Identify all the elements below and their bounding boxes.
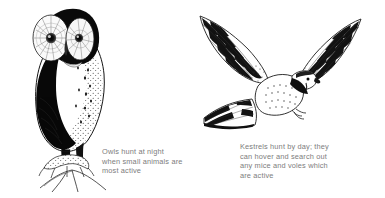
illustration-page: Owls hunt at night when small animals ar… xyxy=(0,0,385,198)
owl-head xyxy=(33,9,99,67)
owl-facial-disc-left xyxy=(33,15,69,61)
owl-facial-disc-right xyxy=(66,18,94,60)
branch xyxy=(40,170,106,192)
kestrel-left-wing xyxy=(200,16,269,83)
owl-talons xyxy=(44,155,89,169)
owl-eye-right xyxy=(75,34,83,42)
kestrel-caption: Kestrels hunt by day; they can hover and… xyxy=(240,142,358,180)
kestrel-eye xyxy=(307,78,310,81)
kestrel-drawing xyxy=(196,6,364,148)
kestrel-illustration xyxy=(196,6,364,148)
left-wing-feathers xyxy=(202,16,262,80)
owl-eye-left xyxy=(46,33,56,43)
kestrel-talons xyxy=(292,109,306,119)
kestrel-tail xyxy=(204,97,256,129)
owl-caption: Owls hunt at night when small animals ar… xyxy=(102,147,194,176)
